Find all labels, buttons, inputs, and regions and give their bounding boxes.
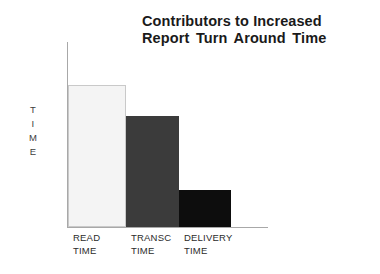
y-axis-label-letter-m: M	[20, 131, 46, 145]
category-label-transc-time: TRANSC TIME	[131, 232, 187, 257]
bar-chart-figure: Contributors to IncreasedReport Turn Aro…	[0, 0, 380, 274]
x-axis-line	[67, 227, 268, 228]
y-axis-label-letter-t: T	[20, 103, 46, 117]
y-axis-label-letter-e: E	[20, 145, 46, 159]
bar-read-time	[68, 85, 126, 227]
y-axis-label: T I M E	[20, 103, 46, 159]
bar-transc-time	[126, 116, 179, 227]
y-axis-label-letter-i: I	[20, 117, 46, 131]
category-label-delivery-time: DELIVERY TIME	[184, 232, 246, 257]
plot-area: T I M E READ TIME TRANSC TIME DELIVERY T…	[0, 0, 380, 274]
bar-delivery-time	[179, 190, 231, 227]
category-label-read-time: READ TIME	[73, 232, 129, 257]
